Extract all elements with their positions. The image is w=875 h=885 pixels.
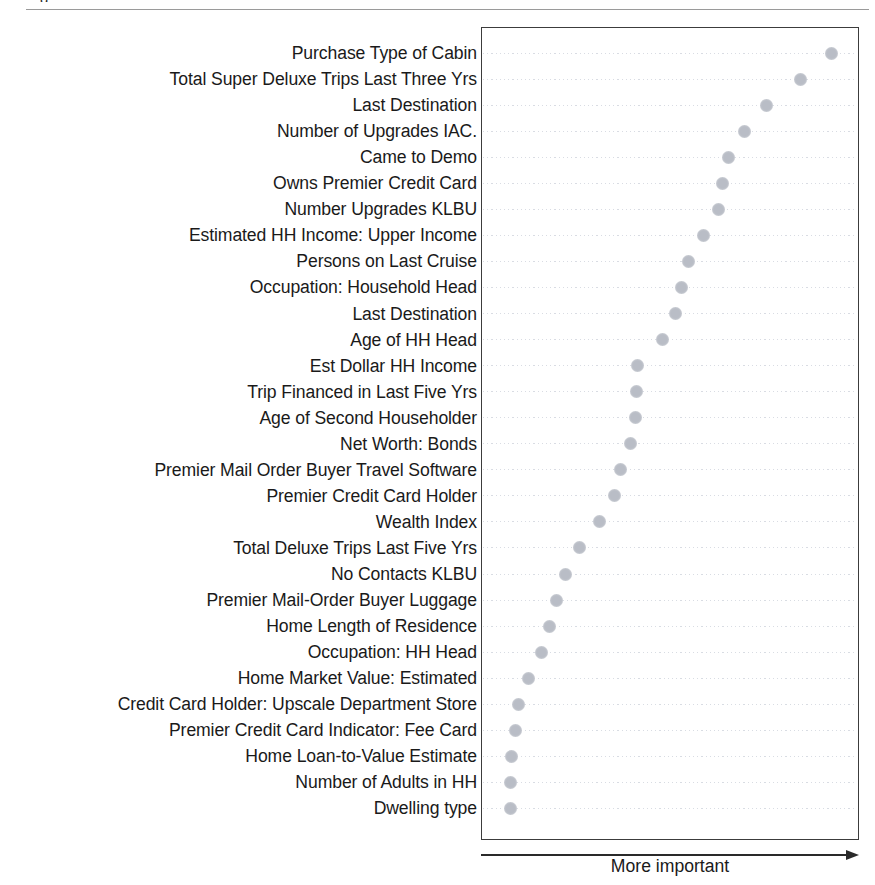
gridline [483,469,857,470]
category-label: Number of Upgrades IAC. [277,118,477,144]
chart-row: Occupation: Household Head [0,274,875,300]
gridline [483,105,857,106]
data-point-dot [675,281,688,294]
chart-row: Age of Second Householder [0,405,875,431]
gridline [483,756,857,757]
gridline [483,521,857,522]
gridline [483,339,857,340]
category-label: Persons on Last Cruise [296,248,477,274]
category-label: Premier Mail Order Buyer Travel Software [154,457,477,483]
chart-row: Total Super Deluxe Trips Last Three Yrs [0,66,875,92]
gridline [483,287,857,288]
chart-row: Trip Financed in Last Five Yrs [0,379,875,405]
category-label: Occupation: Household Head [250,274,477,300]
chart-row: Home Length of Residence [0,613,875,639]
chart-row: Purchase Type of Cabin [0,40,875,66]
category-label: Premier Mail-Order Buyer Luggage [206,587,477,613]
gridline [483,808,857,809]
category-label: Home Loan-to-Value Estimate [245,743,477,769]
chart-row: Total Deluxe Trips Last Five Yrs [0,535,875,561]
chart-row: Premier Credit Card Holder [0,483,875,509]
chart-row: Est Dollar HH Income [0,353,875,379]
chart-row: Net Worth: Bonds [0,431,875,457]
data-point-dot [656,333,669,346]
data-point-dot [573,541,586,554]
data-point-dot [559,568,572,581]
data-point-dot [504,776,517,789]
gridline [483,131,857,132]
chart-row: Premier Mail Order Buyer Travel Software [0,457,875,483]
gridline [483,626,857,627]
variable-importance-chart: Purchase Type of CabinTotal Super Deluxe… [0,0,875,885]
chart-row: Number of Upgrades IAC. [0,118,875,144]
data-point-dot [512,698,525,711]
category-label: Number Upgrades KLBU [284,196,477,222]
data-point-dot [522,672,535,685]
chart-row: Number Upgrades KLBU [0,196,875,222]
data-point-dot [794,73,807,86]
chart-row: Premier Mail-Order Buyer Luggage [0,587,875,613]
data-point-dot [624,437,637,450]
category-label: Last Destination [352,92,477,118]
data-point-dot [504,802,517,815]
category-label: Came to Demo [360,144,477,170]
category-label: Number of Adults in HH [295,769,477,795]
data-point-dot [535,646,548,659]
data-point-dot [505,750,518,763]
chart-row: Last Destination [0,92,875,118]
category-label: Age of Second Householder [259,405,477,431]
gridline [483,391,857,392]
category-label: Trip Financed in Last Five Yrs [247,379,477,405]
chart-row: Owns Premier Credit Card [0,170,875,196]
category-label: Est Dollar HH Income [310,353,477,379]
chart-row: Home Loan-to-Value Estimate [0,743,875,769]
chart-row: Age of HH Head [0,327,875,353]
gridline [483,704,857,705]
data-point-dot [697,229,710,242]
data-point-dot [738,125,751,138]
gridline [483,678,857,679]
data-point-dot [682,255,695,268]
chart-rows: Purchase Type of CabinTotal Super Deluxe… [0,0,875,885]
category-label: No Contacts KLBU [331,561,477,587]
chart-row: Dwelling type [0,795,875,821]
gridline [483,209,857,210]
data-point-dot [669,307,682,320]
x-axis-caption: More important [481,856,859,877]
category-label: Home Length of Residence [266,613,477,639]
gridline [483,183,857,184]
gridline [483,782,857,783]
gridline [483,261,857,262]
chart-row: No Contacts KLBU [0,561,875,587]
gridline [483,365,857,366]
chart-row: Persons on Last Cruise [0,248,875,274]
gridline [483,600,857,601]
chart-row: Last Destination [0,301,875,327]
data-point-dot [550,594,563,607]
category-label: Age of HH Head [350,327,477,353]
category-label: Total Super Deluxe Trips Last Three Yrs [170,66,477,92]
category-label: Owns Premier Credit Card [273,170,477,196]
chart-row: Premier Credit Card Indicator: Fee Card [0,717,875,743]
gridline [483,443,857,444]
category-label: Home Market Value: Estimated [238,665,477,691]
data-point-dot [608,489,621,502]
chart-row: Home Market Value: Estimated [0,665,875,691]
data-point-dot [509,724,522,737]
data-point-dot [716,177,729,190]
chart-page: g Purchase Type of CabinTotal Super Delu… [0,0,875,885]
chart-row: Credit Card Holder: Upscale Department S… [0,691,875,717]
category-label: Credit Card Holder: Upscale Department S… [118,691,477,717]
gridline [483,417,857,418]
gridline [483,547,857,548]
category-label: Premier Credit Card Holder [266,483,477,509]
gridline [483,53,857,54]
data-point-dot [825,47,838,60]
data-point-dot [593,515,606,528]
category-label: Estimated HH Income: Upper Income [189,222,477,248]
category-label: Last Destination [352,301,477,327]
gridline [483,730,857,731]
data-point-dot [760,99,773,112]
data-point-dot [722,151,735,164]
category-label: Net Worth: Bonds [340,431,477,457]
